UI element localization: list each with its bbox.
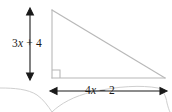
base-constant: 2 [109, 84, 115, 96]
height-arrowhead-top [27, 8, 34, 15]
base-operator: − [99, 84, 106, 96]
base-variable: x [91, 84, 96, 96]
height-constant: 4 [36, 37, 42, 49]
base-dimension-label: 4x − 2 [76, 85, 124, 97]
triangle-outline [52, 10, 165, 78]
height-dimension-label: 3x + 4 [4, 38, 50, 50]
triangle-hypotenuse [52, 10, 165, 78]
height-arrowhead-bottom [27, 73, 34, 80]
right-angle-marker [52, 70, 60, 78]
base-arrowhead-left [50, 88, 57, 95]
artifact-curve-left [0, 88, 52, 112]
height-operator: + [26, 37, 33, 49]
geometry-figure: 3x + 4 4x − 2 [0, 0, 172, 112]
height-variable: x [18, 37, 23, 49]
